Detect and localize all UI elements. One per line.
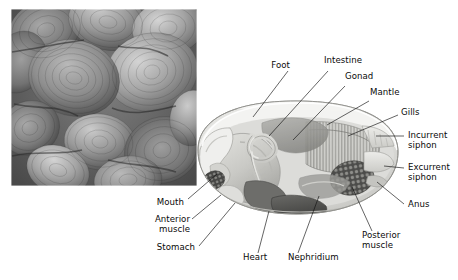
label-gonad: Gonad [345,72,373,82]
label-mantle: Mantle [370,88,399,98]
label-excurrent-siphon: Excurrent siphon [408,163,450,182]
label-anterior-muscle: Anterior muscle [130,215,190,234]
label-gills: Gills [401,108,420,118]
label-anus: Anus [408,200,429,210]
label-intestine: Intestine [324,56,362,66]
label-incurrent-siphon: Incurrent siphon [408,131,447,150]
clam-shells-photograph [0,0,219,207]
heart-leader [258,211,269,253]
label-stomach: Stomach [135,243,195,253]
label-mouth: Mouth [134,198,184,208]
label-heart: Heart [243,253,267,263]
label-nephridium: Nephridium [288,253,339,263]
anus-leader [377,182,404,204]
label-foot: Foot [246,61,290,71]
clam-internal-anatomy-illustration [196,100,400,222]
anterior-muscle-leader [192,195,221,219]
stomach-leader [199,203,235,246]
label-posterior-muscle: Posterior muscle [362,231,400,250]
